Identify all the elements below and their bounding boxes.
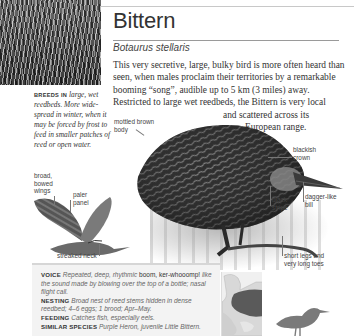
title-rule — [113, 40, 339, 41]
voice-entry: VOICE Repeated, deep, rhythmic boom, ker… — [41, 271, 214, 297]
reedbed-habitat-photo — [0, 0, 101, 85]
similar-species-entry: SIMILAR SPECIES Purple Heron, juvenile L… — [41, 323, 214, 332]
leader-line — [54, 196, 55, 206]
feeding-entry: FEEDING Catches fish, especially eels. — [41, 314, 214, 323]
nesting-entry: NESTING Broad nest of reed stems hidden … — [41, 297, 214, 314]
bittern-illustration — [128, 117, 343, 257]
label-black-stripe: black stripe — [272, 196, 288, 211]
label-broad-bowed-wings: broad, bowed wings — [34, 172, 53, 195]
leader-line — [270, 186, 271, 206]
leader-line — [303, 182, 304, 202]
leader-line — [282, 236, 283, 256]
species-title: Bittern — [113, 8, 175, 34]
label-dagger-like-bill: dagger-like bill — [305, 193, 337, 208]
european-range-map — [221, 272, 262, 336]
species-facts-box: VOICE Repeated, deep, rhythmic boom, ker… — [32, 263, 220, 336]
label-streaked-neck: streaked neck — [57, 252, 97, 260]
label-blackish-crown: blackish crown — [293, 146, 316, 161]
leader-line — [70, 200, 71, 212]
bittern-silhouette-icon — [272, 302, 332, 336]
habitat-lead: BREEDS IN — [34, 92, 67, 98]
label-short-legs-long-toes: short legs and very long toes — [284, 252, 324, 267]
leader-line — [99, 244, 100, 256]
habitat-caption: BREEDS IN large, wet reedbeds. More wide… — [34, 90, 110, 150]
latin-name: Botaurus stellaris — [113, 42, 190, 53]
label-paler-panel: paler panel — [73, 191, 89, 206]
label-mottled-brown-body: mottled brown body — [114, 118, 154, 133]
range-map-graphic — [222, 272, 262, 336]
leader-line — [268, 157, 292, 158]
